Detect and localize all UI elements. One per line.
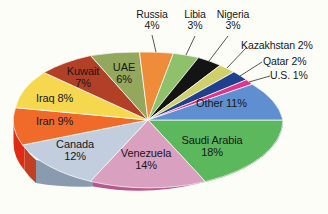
pie-slices-top [13,52,283,188]
leader-line-kazakhstan [227,47,247,68]
pie-chart: Russia 4% Libia 3% Nigeria 3% Kazakhstan… [0,0,328,214]
leader-line-nigeria [209,36,228,61]
leader-line-qatar [240,62,262,76]
leader-line-libia [186,36,195,55]
pie-chart-graphic [0,0,328,214]
leader-line-us [249,76,270,82]
leader-line-russia [152,35,156,52]
